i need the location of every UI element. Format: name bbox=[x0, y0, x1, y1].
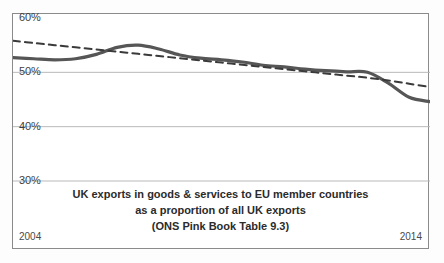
chart-figure: 60% 50% 40% 30% UK exports in goods & se… bbox=[0, 0, 444, 263]
x-axis-label-end: 2014 bbox=[400, 231, 422, 242]
caption-line-2: as a proportion of all UK exports bbox=[13, 202, 428, 218]
x-axis-label-start: 2004 bbox=[19, 231, 41, 242]
data-series-group bbox=[13, 41, 430, 102]
chart-caption: UK exports in goods & services to EU mem… bbox=[13, 186, 428, 234]
trend-line-dashed bbox=[13, 41, 430, 87]
y-axis-label-50: 50% bbox=[19, 65, 41, 77]
caption-line-3: (ONS Pink Book Table 9.3) bbox=[13, 218, 428, 234]
y-axis-label-40: 40% bbox=[19, 120, 41, 132]
gridlines bbox=[13, 18, 430, 181]
caption-line-1: UK exports in goods & services to EU mem… bbox=[13, 186, 428, 202]
data-line-exports bbox=[13, 45, 430, 102]
chart-plot-frame: 60% 50% 40% 30% UK exports in goods & se… bbox=[12, 13, 429, 249]
y-axis-label-30: 30% bbox=[19, 174, 41, 186]
y-axis-label-60: 60% bbox=[19, 11, 41, 23]
